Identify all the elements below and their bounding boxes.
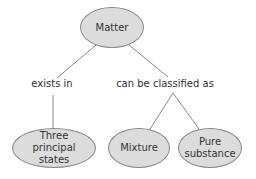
- node-three-principal-states: Three principal states: [12, 128, 96, 168]
- node-mixture: Mixture: [108, 128, 170, 168]
- node-three-principal-states-label: Three principal states: [17, 130, 91, 166]
- link-label-exists-in: exists in: [31, 78, 72, 89]
- node-matter-label: Matter: [96, 22, 129, 34]
- node-pure-substance: Pure substance: [178, 128, 242, 168]
- node-pure-substance-label: Pure substance: [184, 136, 235, 160]
- link-label-classified-as: can be classified as: [116, 78, 214, 89]
- node-matter: Matter: [80, 7, 144, 48]
- node-mixture-label: Mixture: [120, 142, 158, 154]
